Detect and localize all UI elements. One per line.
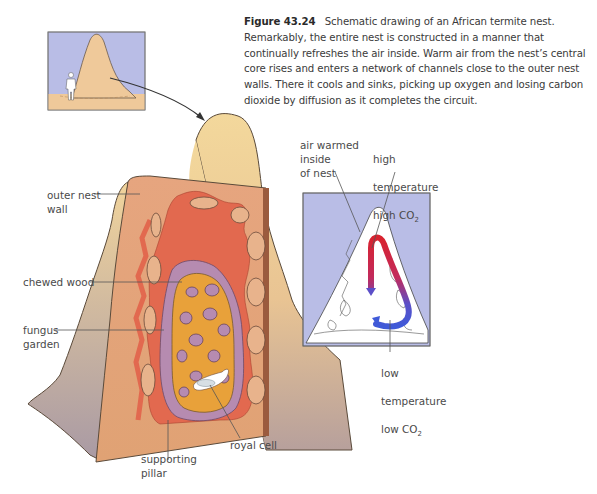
inset-thumbnail [48,32,145,110]
label-air-warmed: air warmed inside of nest [300,138,359,180]
label-supporting-pillar: supporting pillar [141,452,197,480]
caption-text: Schematic drawing of an African termite … [244,16,586,106]
label-outer-nest-wall: outer nest wall [47,188,100,216]
label-royal-cell: royal cell [230,438,277,452]
label-chewed-wood: chewed wood [23,275,94,289]
arrow-head-icon [196,112,205,121]
label-low-temperature: low temperature low CO2 [381,352,446,441]
figure-number: Figure 43.24 [244,16,316,27]
label-fungus-garden: fungus garden [23,323,60,351]
figure-caption: Figure 43.24 Schematic drawing of an Afr… [244,14,594,109]
label-high-temperature: high temperature high CO2 [373,138,438,227]
